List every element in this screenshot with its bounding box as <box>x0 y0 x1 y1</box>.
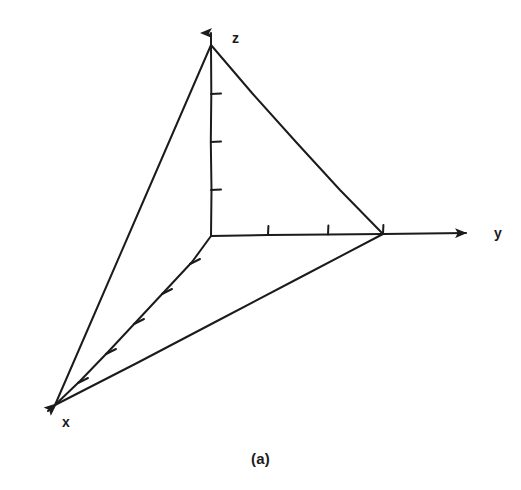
z-axis-tick-1 <box>211 94 221 95</box>
y-axis-label: y <box>494 226 502 240</box>
axes-diagram-svg <box>0 0 521 490</box>
x-axis-label: x <box>62 415 70 429</box>
z-axis-label: z <box>232 31 239 45</box>
plane-edge-x-to-y <box>55 234 383 405</box>
figure-3d-axes-plane: z y x (a) <box>0 0 521 490</box>
plane-edge-z-to-x <box>55 45 211 405</box>
x-axis-line <box>48 236 211 411</box>
plane-edge-z-to-y <box>211 45 383 234</box>
figure-caption: (a) <box>0 450 521 467</box>
z-axis-tick-2 <box>211 142 221 143</box>
z-axis-tick-3 <box>211 190 221 191</box>
y-axis-line <box>211 233 466 236</box>
z-axis-line <box>211 33 212 236</box>
